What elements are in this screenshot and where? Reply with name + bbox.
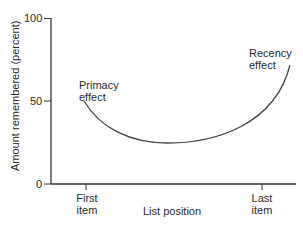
y-axis-label: Amount remembered (percent) [9,21,21,171]
y-tick-label-100: 100 [24,12,42,24]
first-line1: First [74,192,100,204]
x-axis-label: List position [143,205,201,217]
y-tick-label-0: 0 [36,178,42,190]
first-line2: item [74,204,100,216]
primacy-annotation: Primacy effect [79,79,119,103]
y-tick-label-50: 50 [30,95,42,107]
serial-position-curve [84,65,290,143]
recency-line2: effect [249,59,292,71]
x-tick-label-last: Last item [249,192,275,216]
primacy-line1: Primacy [79,79,119,91]
recency-annotation: Recency effect [249,47,292,71]
x-tick-label-first: First item [74,192,100,216]
recency-line1: Recency [249,47,292,59]
last-line1: Last [249,192,275,204]
last-line2: item [249,204,275,216]
primacy-line2: effect [79,91,119,103]
